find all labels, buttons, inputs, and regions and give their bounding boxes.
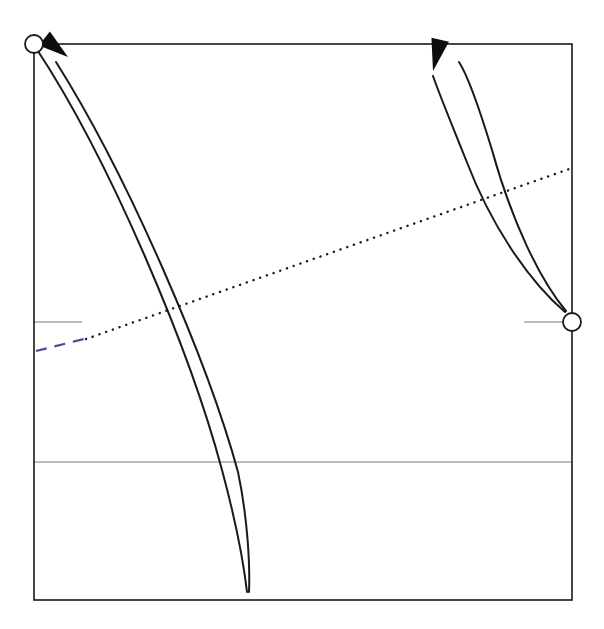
- figure-canvas: [0, 0, 604, 629]
- figure-background: [0, 0, 604, 629]
- fixed-point-upper-left: [25, 35, 43, 53]
- figure-root: [0, 0, 604, 629]
- fixed-point-right: [563, 313, 581, 331]
